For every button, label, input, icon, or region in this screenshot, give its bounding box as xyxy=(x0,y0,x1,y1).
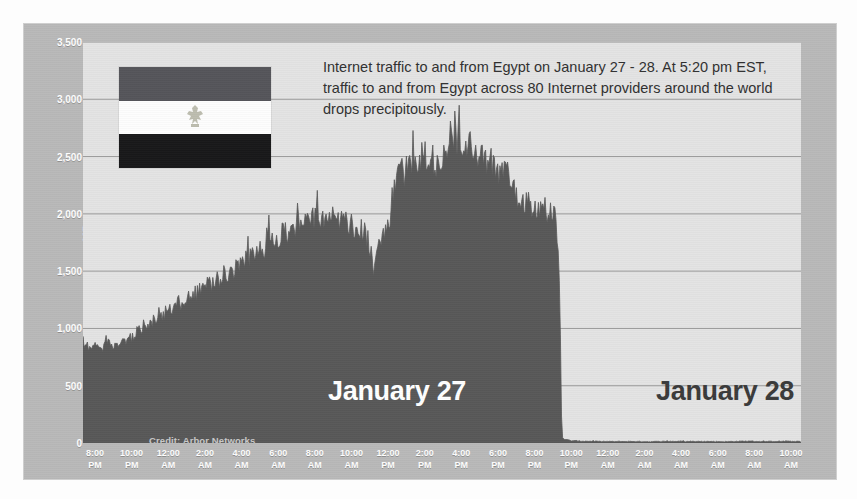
x-axis-tick-time: 8:00 xyxy=(306,448,324,458)
y-axis: 05001,0001,5002,0002,5003,0003,500 xyxy=(34,24,82,479)
day-label-january-27: January 27 xyxy=(328,376,466,407)
flag-band-top xyxy=(119,67,271,101)
y-axis-tick-label: 3,500 xyxy=(36,37,82,48)
x-axis-tick-time: 2:00 xyxy=(416,448,434,458)
y-axis-tick-label: 500 xyxy=(36,380,82,391)
chart-photo-frame: 05001,0001,5002,0002,5003,0003,500 MBps xyxy=(24,24,836,479)
flag-band-middle xyxy=(119,101,271,135)
x-axis-tick-time: 4:00 xyxy=(672,448,690,458)
x-axis-tick-time: 10:00 xyxy=(560,448,583,458)
x-axis-tick-time: 8:00 xyxy=(526,448,544,458)
x-axis-tick-time: 4:00 xyxy=(452,448,470,458)
x-axis-tick-time: 12:00 xyxy=(596,448,619,458)
y-axis-tick-label: 1,000 xyxy=(36,323,82,334)
x-axis-tick-time: 6:00 xyxy=(709,448,727,458)
y-axis-tick-label: 1,500 xyxy=(36,266,82,277)
x-axis-tick-time: 12:00 xyxy=(157,448,180,458)
x-axis-tick-label: 10:00AM xyxy=(769,447,813,471)
x-axis-tick-time: 12:00 xyxy=(377,448,400,458)
figure-root: 05001,0001,5002,0002,5003,0003,500 MBps xyxy=(0,0,857,499)
eagle-of-saladin-icon xyxy=(185,104,205,130)
x-axis-tick-time: 10:00 xyxy=(340,448,363,458)
plot-area: Internet traffic to and from Egypt on Ja… xyxy=(83,42,801,443)
x-axis-tick-time: 6:00 xyxy=(269,448,287,458)
day-label-january-28: January 28 xyxy=(656,376,794,407)
credit-label: Credit: Arbor Networks xyxy=(149,435,255,443)
x-axis-tick-time: 2:00 xyxy=(196,448,214,458)
x-axis-tick-time: 2:00 xyxy=(635,448,653,458)
x-axis-tick-time: 6:00 xyxy=(489,448,507,458)
x-axis-tick-time: 10:00 xyxy=(120,448,143,458)
egypt-flag-icon xyxy=(119,67,271,168)
x-axis-tick-time: 10:00 xyxy=(779,448,802,458)
y-axis-tick-label: 2,000 xyxy=(36,208,82,219)
y-axis-tick-label: 3,000 xyxy=(36,94,82,105)
x-axis-tick-time: 4:00 xyxy=(233,448,251,458)
x-axis-tick-meridiem: AM xyxy=(769,459,813,471)
y-axis-tick-label: 2,500 xyxy=(36,151,82,162)
x-axis: 8:00PM10:00PM12:00AM2:00AM4:00AM6:00AM8:… xyxy=(83,445,801,479)
annotation-text: Internet traffic to and from Egypt on Ja… xyxy=(323,57,773,120)
x-axis-tick-time: 8:00 xyxy=(86,448,104,458)
x-axis-tick-time: 8:00 xyxy=(745,448,763,458)
flag-band-bottom xyxy=(119,134,271,168)
